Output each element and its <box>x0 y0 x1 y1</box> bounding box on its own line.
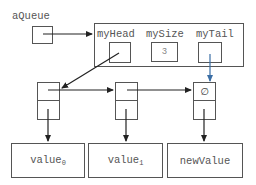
arrows-layer <box>0 0 256 185</box>
head-arrow-icon <box>62 53 119 88</box>
linked-queue-diagram: aQueue myHead mySize myTail 3 ∅ value0 v… <box>0 0 256 185</box>
